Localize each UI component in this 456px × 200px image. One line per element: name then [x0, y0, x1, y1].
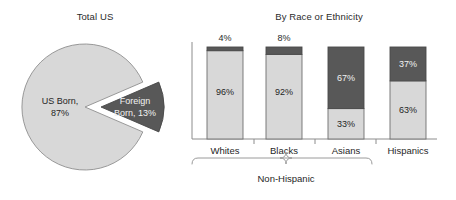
x-axis-ticks: [254, 139, 376, 144]
bar-label-blacks-foreign-born: 8%: [277, 33, 290, 43]
bar-label-asians-us-born: 33%: [337, 119, 355, 129]
pie-label-us-born-line1: US Born,: [42, 96, 79, 106]
pie-label-foreign-born-line1: Foreign: [120, 96, 151, 106]
bar-label-blacks-us-born: 92%: [275, 87, 293, 97]
bar-group-hispanics: 63% 37%: [390, 47, 426, 139]
bar-label-whites-us-born: 96%: [216, 87, 234, 97]
bar-group-blacks: 92% 8%: [266, 33, 302, 139]
pie-chart-svg: US Born, 87% Foreign Born, 13%: [0, 0, 190, 200]
pie-chart-panel: Total US US Born, 87% Foreign Born, 13%: [0, 0, 190, 200]
bar-label-asians-foreign-born: 67%: [337, 73, 355, 83]
bar-chart-svg: 96% 4% 92% 8% 33% 67% 63%: [182, 0, 456, 200]
bar-label-hispanics-us-born: 63%: [399, 105, 417, 115]
bar-category-label-asians: Asians: [332, 145, 361, 156]
figure-foreign-born-population: Total US US Born, 87% Foreign Born, 13% …: [0, 0, 456, 200]
bar-category-label-blacks: Blacks: [270, 145, 298, 156]
bar-segment-blacks-foreign-born: [266, 47, 302, 54]
pie-label-us-born-line2: 87%: [51, 108, 69, 118]
bar-label-hispanics-foreign-born: 37%: [399, 59, 417, 69]
bar-segment-whites-foreign-born: [207, 47, 243, 51]
non-hispanic-bracket-label: Non-Hispanic: [257, 173, 314, 184]
bar-chart-panel: By Race or Ethnicity 96% 4% 92% 8%: [182, 0, 456, 200]
bar-category-label-whites: Whites: [210, 145, 239, 156]
pie-label-foreign-born-line2: Born, 13%: [114, 108, 156, 118]
bar-category-label-hispanics: Hispanics: [387, 145, 428, 156]
bar-label-whites-foreign-born: 4%: [218, 33, 231, 43]
bar-group-asians: 33% 67%: [328, 47, 364, 139]
bar-group-whites: 96% 4%: [207, 33, 243, 139]
